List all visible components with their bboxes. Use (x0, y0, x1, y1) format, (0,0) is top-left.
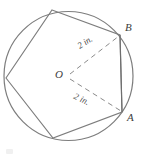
segment-ab (120, 35, 122, 112)
center-label-o: O (55, 69, 63, 80)
geometry-figure: B A O 2 in. 2 in. (0, 0, 147, 156)
circumscribed-circle (4, 12, 133, 141)
vertex-label-b: B (125, 22, 132, 33)
scan-artifact (6, 149, 13, 154)
vertex-label-a: A (127, 112, 134, 123)
